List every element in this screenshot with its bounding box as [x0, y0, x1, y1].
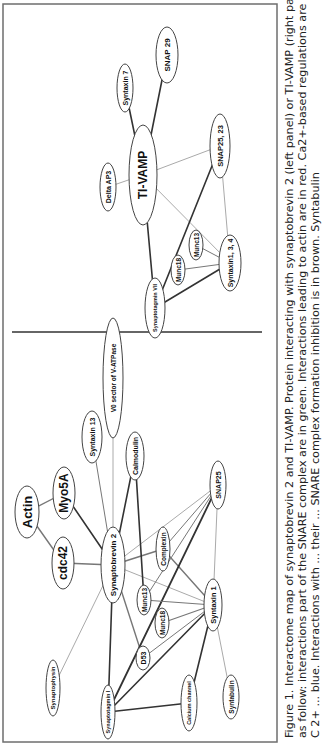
- node-label: SNAP 29: [163, 38, 172, 72]
- node-munc18b: Munc18: [171, 255, 185, 285]
- caption-line: Figure 1. Interactome map of synaptobrev…: [283, 0, 296, 738]
- node-munc18a: Munc18: [155, 608, 169, 638]
- node-munc13b: Munc13: [189, 230, 203, 260]
- node-deltaap3: Delta AP3: [100, 163, 116, 211]
- node-label: Munc18: [175, 258, 182, 283]
- node-label: Delta AP3: [105, 171, 112, 204]
- node-label: Syntaxin 1: [209, 586, 218, 624]
- node-label: Syntaxin1, 3, 4: [227, 239, 235, 288]
- node-label: cdc42: [56, 546, 70, 580]
- node-label: Synaptotagmin I: [105, 690, 111, 733]
- caption-line: C 2+ ... blue. Interactions with ... the…: [309, 0, 322, 738]
- node-vatpase: V0 sector of V-ATPase: [103, 318, 123, 438]
- node-syntabulin: Syntabulin: [223, 675, 239, 719]
- node-syb2: Synaptobrevin 2: [101, 527, 125, 603]
- node-actin: Actin: [15, 486, 39, 538]
- node-label: Syntaxin 13: [89, 417, 97, 456]
- node-label: Synaptotagmin VII: [152, 284, 158, 332]
- edge-complexin-snap25: [163, 485, 218, 549]
- node-label: Syntabulin: [228, 680, 236, 713]
- node-label: Munc13: [193, 233, 200, 258]
- edge-snap2523-syt7: [155, 146, 220, 308]
- node-label: Myo5A: [57, 473, 71, 513]
- node-syt7: Synaptotagmin VII: [145, 278, 165, 338]
- node-label: Munc18: [159, 611, 166, 636]
- node-label: Synaptobrevin 2: [109, 533, 118, 596]
- node-cdc42: cdc42: [52, 537, 74, 589]
- node-label: Actin: [20, 496, 35, 529]
- synaptobrevin2-panel: V0 sector of V-ATPaseSyntaxin 13Calmodul…: [15, 318, 239, 739]
- tivamp-panel: TI-VAMPDelta AP3Syntaxin 7SNAP 29SNAP25,…: [100, 27, 241, 338]
- figure-frame: [3, 4, 277, 742]
- caption-line: as follow: interactions part of the SNAR…: [296, 0, 309, 738]
- node-d53: D53: [136, 646, 150, 670]
- node-stx134: Syntaxin1, 3, 4: [219, 235, 241, 291]
- node-label: D53: [140, 651, 147, 664]
- node-label: TI-VAMP: [136, 151, 150, 199]
- node-label: Synaptophysin: [50, 666, 56, 709]
- node-tivamp: TI-VAMP: [129, 125, 157, 225]
- edge-snap25-munc13a: [144, 485, 218, 600]
- node-complexin: Complexin: [156, 527, 170, 571]
- node-label: Complexin: [160, 532, 168, 565]
- edge-syt1-cachannel: [108, 703, 189, 712]
- figure-caption: Figure 1. Interactome map of synaptobrev…: [283, 0, 322, 738]
- node-label: Munc13: [141, 588, 148, 613]
- node-label: Syntaxin 7: [122, 70, 130, 105]
- node-label: SNAP25, 23: [216, 125, 225, 167]
- node-synaptophysin: Synaptophysin: [46, 660, 60, 716]
- node-calmodulin: Calmodulin: [126, 432, 144, 480]
- node-cachannel: Calcium channel: [181, 675, 197, 731]
- node-snap2523: SNAP25, 23: [210, 114, 230, 178]
- node-label: V0 sector of V-ATPase: [110, 343, 117, 412]
- node-stx13: Syntaxin 13: [82, 411, 102, 463]
- node-munc13a: Munc13: [137, 585, 151, 615]
- node-label: SNAP25: [215, 471, 222, 498]
- node-stx1: Syntaxin 1: [204, 579, 222, 631]
- node-label: Calmodulin: [132, 437, 139, 475]
- node-label: Calcium channel: [186, 681, 192, 725]
- node-myo5a: Myo5A: [53, 467, 75, 519]
- node-syt1: Synaptotagmin I: [101, 685, 115, 739]
- node-snap25: SNAP25: [210, 461, 226, 509]
- node-stx7: Syntaxin 7: [117, 64, 133, 112]
- edge-syt7-stx134: [155, 263, 230, 308]
- synaptobrevin2-nodes: V0 sector of V-ATPaseSyntaxin 13Calmodul…: [15, 318, 239, 739]
- node-snap29: SNAP 29: [156, 27, 178, 83]
